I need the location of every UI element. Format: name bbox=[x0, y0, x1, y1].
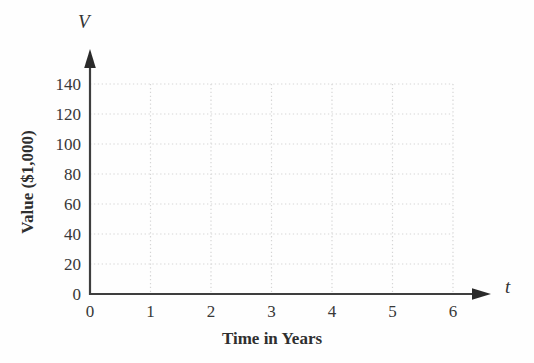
x-tick-label: 1 bbox=[131, 303, 171, 320]
x-tick-label: 5 bbox=[373, 303, 413, 320]
x-axis-title: Time in Years bbox=[162, 329, 382, 349]
x-tick-label: 4 bbox=[312, 303, 352, 320]
y-tick-label: 0 bbox=[35, 286, 81, 303]
x-axis-arrowhead bbox=[472, 288, 491, 300]
y-tick-label: 100 bbox=[35, 136, 81, 153]
y-tick-label: 60 bbox=[35, 196, 81, 213]
y-tick-label: 20 bbox=[35, 256, 81, 273]
x-axis-symbol: t bbox=[505, 277, 510, 296]
x-tick-label: 2 bbox=[191, 303, 231, 320]
x-tick-label: 3 bbox=[252, 303, 292, 320]
x-tick-label: 6 bbox=[433, 303, 473, 320]
y-tick-label: 80 bbox=[35, 166, 81, 183]
y-tick-label: 140 bbox=[35, 76, 81, 93]
y-axis-arrowhead bbox=[84, 49, 96, 68]
y-axis-title: Value ($1,000) bbox=[18, 77, 40, 287]
x-tick-label: 0 bbox=[70, 303, 110, 320]
y-tick-label: 40 bbox=[35, 226, 81, 243]
chart-figure: V t 020406080100120140 0123456 Time in Y… bbox=[0, 0, 534, 363]
y-tick-label: 120 bbox=[35, 106, 81, 123]
y-axis-symbol: V bbox=[78, 12, 90, 31]
